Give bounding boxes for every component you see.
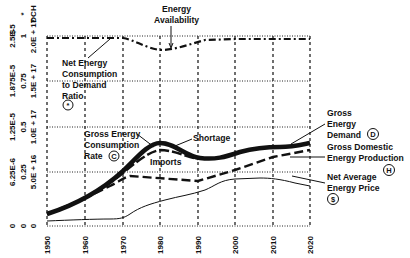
svg-text:Energy Production: Energy Production — [327, 153, 404, 163]
y-axis-dch: DCH 0 5.0E + 16 1.0E + 17 1.5E + 17 2.0E… — [29, 5, 38, 228]
svg-text:to Demand: to Demand — [62, 80, 106, 90]
annotation-price: Net Average Energy Price $ — [292, 172, 380, 205]
svg-text:Demand: Demand — [327, 130, 361, 140]
svg-text:Net Average: Net Average — [327, 172, 377, 182]
energy-system-chart: $ 0 6.25E-6 1.25E-5 1.875E-5 2.5E-5 * 0 … — [0, 0, 410, 258]
svg-text:Energy: Energy — [327, 119, 356, 129]
svg-text:Gross Energy: Gross Energy — [84, 129, 141, 139]
svg-text:Energy: Energy — [162, 4, 191, 14]
x-tick-2000: 2000 — [231, 236, 240, 254]
svg-text:*: * — [67, 101, 70, 110]
y-tick-dollar-3: 1.875E-5 — [8, 64, 17, 97]
annotation-net-ratio: Net Energy Consumption to Demand Ratio * — [62, 39, 117, 110]
y-axis-star: * 0 0.25 0.5 0.75 1 — [19, 12, 28, 229]
y-tick-dollar-1: 6.25E-6 — [8, 157, 17, 186]
svg-text:Imports: Imports — [150, 157, 182, 167]
y-axis-dollar: $ 0 6.25E-6 1.25E-5 1.875E-5 2.5E-5 — [8, 24, 17, 229]
svg-text:Ratio: Ratio — [62, 91, 83, 101]
annotation-energy-availability: Energy Availability — [154, 4, 199, 48]
x-tick-1980: 1980 — [156, 236, 165, 254]
y-tick-star-1: 0.25 — [19, 164, 28, 180]
y-axis-star-header: * — [19, 12, 28, 16]
y-tick-dollar-4: 2.5E-5 — [8, 24, 17, 48]
svg-text:Shortage: Shortage — [193, 133, 230, 143]
y-tick-dch-2: 1.0E + 17 — [29, 109, 38, 144]
svg-text:Net Energy: Net Energy — [62, 58, 108, 68]
annotation-imports: Imports — [150, 157, 182, 167]
energy-availability-line — [47, 38, 310, 50]
svg-text:Consumption: Consumption — [62, 69, 117, 79]
annotation-shortage: Shortage — [175, 133, 230, 146]
svg-text:Rate: Rate — [84, 151, 103, 161]
svg-text:Gross: Gross — [327, 108, 352, 118]
y-tick-dollar-2: 1.25E-5 — [8, 112, 17, 141]
y-tick-star-0: 0 — [19, 223, 28, 228]
y-tick-star-2: 0.5 — [19, 121, 28, 133]
y-tick-dch-3: 1.5E + 17 — [29, 63, 38, 98]
annotation-gross-demand: Gross Energy Demand D — [291, 108, 379, 144]
x-tick-1990: 1990 — [194, 236, 203, 254]
annotation-domestic-production: Gross Domestic Energy Production H — [290, 142, 404, 176]
y-tick-dch-0: 0 — [29, 223, 38, 228]
svg-text:H: H — [386, 166, 391, 175]
svg-text:C: C — [111, 152, 117, 161]
x-tick-2020: 2020 — [306, 236, 315, 254]
y-tick-star-3: 0.75 — [19, 73, 28, 89]
svg-text:D: D — [370, 130, 376, 139]
x-axis: 1950 1960 1970 1980 1990 2000 2010 2020 — [43, 236, 315, 254]
y-tick-dollar-0: 0 — [8, 223, 17, 228]
x-tick-2010: 2010 — [269, 236, 278, 254]
x-tick-1970: 1970 — [119, 236, 128, 254]
y-tick-dch-1: 5.0E + 16 — [29, 154, 38, 189]
x-tick-1950: 1950 — [43, 236, 52, 254]
x-tick-1960: 1960 — [81, 236, 90, 254]
y-tick-star-4: 1 — [19, 33, 28, 38]
svg-text:Energy Price: Energy Price — [327, 183, 380, 193]
svg-text:Availability: Availability — [154, 15, 199, 25]
y-tick-dch-4: 2.0E + 17 — [29, 18, 38, 53]
svg-text:Consumption: Consumption — [84, 140, 139, 150]
svg-text:Gross Domestic: Gross Domestic — [327, 142, 393, 152]
